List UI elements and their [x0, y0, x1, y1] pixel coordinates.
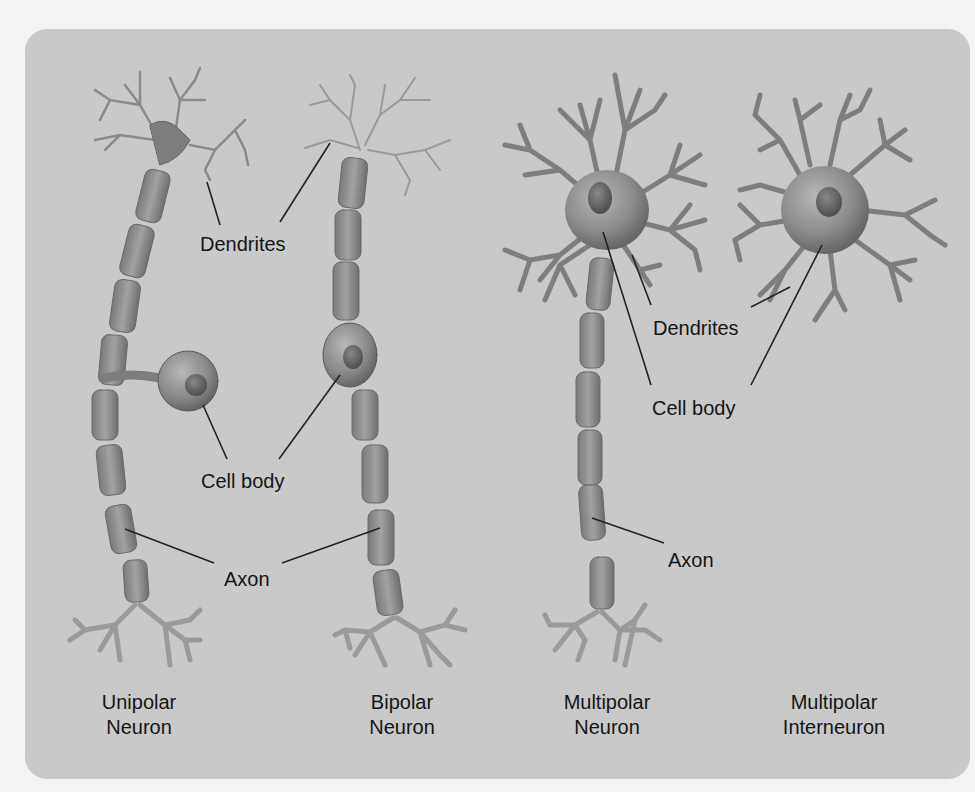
- label-cell-body-right: Cell body: [652, 396, 735, 420]
- neuron-illustration: [25, 29, 970, 779]
- multipolar-interneuron: [735, 90, 945, 320]
- caption-multipolar-neuron: Multipolar Neuron: [527, 690, 687, 740]
- caption-bipolar: Bipolar Neuron: [322, 690, 482, 740]
- caption-unipolar: Unipolar Neuron: [59, 690, 219, 740]
- caption-multipolar-interneuron: Multipolar Interneuron: [754, 690, 914, 740]
- bipolar-neuron: [305, 75, 465, 665]
- diagram-panel: Dendrites Cell body Axon Dendrites Cell …: [25, 29, 970, 779]
- leader-lines: [125, 143, 822, 563]
- label-axon-right: Axon: [668, 548, 714, 572]
- label-dendrites-right: Dendrites: [653, 316, 739, 340]
- multipolar-neuron: [505, 75, 705, 665]
- label-dendrites-left: Dendrites: [200, 232, 286, 256]
- label-axon-left: Axon: [224, 567, 270, 591]
- unipolar-neuron: [70, 68, 248, 665]
- label-cell-body-left: Cell body: [201, 469, 284, 493]
